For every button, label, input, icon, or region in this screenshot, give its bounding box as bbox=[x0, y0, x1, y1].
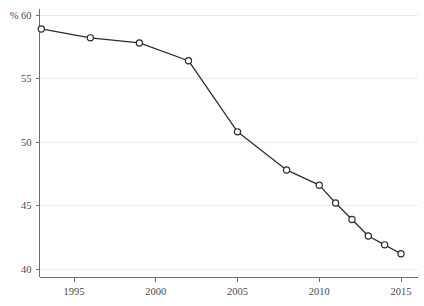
data-point-2015 bbox=[398, 251, 404, 257]
y-tick-labels-group: 40455055 bbox=[21, 73, 32, 275]
unit-label-group: % 60 bbox=[10, 10, 32, 21]
y-axis-unit-label: % 60 bbox=[10, 10, 32, 21]
chart-canvas: 40455055 19952000200520102015 % 60 bbox=[0, 0, 424, 306]
data-point-1996 bbox=[87, 35, 93, 41]
series-markers-group bbox=[38, 26, 404, 257]
data-point-2010 bbox=[316, 182, 322, 188]
data-point-2014 bbox=[382, 242, 388, 248]
x-tick-labels-group: 19952000200520102015 bbox=[64, 286, 412, 297]
x-tick-label-2005: 2005 bbox=[227, 286, 248, 297]
data-point-2013 bbox=[365, 233, 371, 239]
y-tick-label-55: 55 bbox=[21, 73, 32, 84]
data-point-2011 bbox=[333, 200, 339, 206]
gridlines-group bbox=[40, 15, 419, 269]
data-point-2002 bbox=[185, 58, 191, 64]
x-tick-label-2010: 2010 bbox=[309, 286, 330, 297]
x-tick-label-2015: 2015 bbox=[391, 286, 412, 297]
y-tick-label-45: 45 bbox=[21, 200, 32, 211]
axes-group bbox=[40, 9, 419, 277]
data-point-2008 bbox=[283, 167, 289, 173]
series-line-1 bbox=[41, 29, 401, 254]
data-point-2012 bbox=[349, 216, 355, 222]
data-point-1993 bbox=[38, 26, 44, 32]
x-tick-label-2000: 2000 bbox=[145, 286, 166, 297]
data-point-2005 bbox=[234, 129, 240, 135]
y-tick-label-40: 40 bbox=[21, 264, 32, 275]
tick-marks-group bbox=[36, 15, 402, 282]
line-chart: 40455055 19952000200520102015 % 60 bbox=[0, 0, 424, 306]
y-tick-label-50: 50 bbox=[21, 137, 32, 148]
data-point-1999 bbox=[136, 40, 142, 46]
series-line-group bbox=[41, 29, 401, 254]
x-tick-label-1995: 1995 bbox=[64, 286, 85, 297]
